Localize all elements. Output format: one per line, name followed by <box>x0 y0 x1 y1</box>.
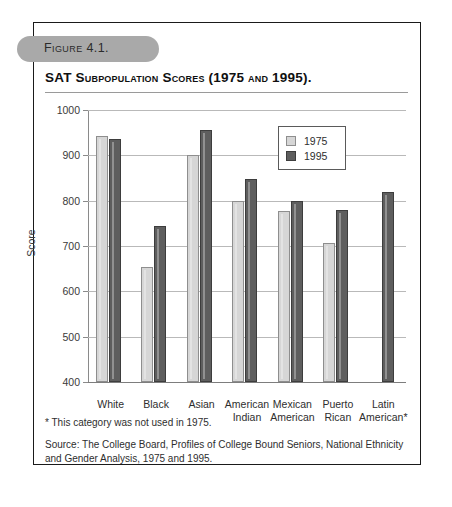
y-axis-tickmark <box>83 291 88 292</box>
bar-highlight <box>248 182 250 379</box>
title-divider <box>45 92 408 93</box>
bar-highlight <box>339 213 341 379</box>
y-axis-tick-label: 400 <box>44 376 80 388</box>
y-axis-tickmark <box>83 155 88 156</box>
bar-y1975 <box>187 155 199 382</box>
y-axis-tick-label: 500 <box>44 331 80 343</box>
y-axis-tick-label: 800 <box>44 195 80 207</box>
footnote-text: * This category was not used in 1975. <box>45 416 405 429</box>
bar-highlight <box>385 195 387 379</box>
plot-area: 1000900800700600500400 WhiteBlackAsianAm… <box>88 110 406 382</box>
bar-group <box>96 110 133 382</box>
bar-y1975 <box>323 243 335 382</box>
legend-item: 1975 <box>286 133 338 148</box>
legend-swatch <box>286 136 296 146</box>
y-axis-tickmark <box>83 337 88 338</box>
y-axis-tick-label: 900 <box>44 149 80 161</box>
bar-highlight <box>112 142 114 379</box>
chart-title: SAT Subpopulation Scores (1975 and 1995)… <box>45 70 312 85</box>
y-axis-tickmark <box>83 110 88 111</box>
source-text: Source: The College Board, Profiles of C… <box>45 438 405 465</box>
bar-y1975 <box>278 211 290 382</box>
bar-group <box>141 110 178 382</box>
y-axis-tick-label: 700 <box>44 240 80 252</box>
legend-label: 1975 <box>304 135 327 147</box>
bar-y1975 <box>232 201 244 382</box>
bar-y1995 <box>382 192 394 382</box>
bar-group <box>187 110 224 382</box>
bar-y1995 <box>200 130 212 382</box>
bar-y1995 <box>291 201 303 382</box>
y-axis-tick-label: 600 <box>44 285 80 297</box>
y-axis-tickmark <box>83 382 88 383</box>
bar-y1995 <box>245 179 257 382</box>
bar-y1975 <box>141 267 153 382</box>
bar-highlight <box>157 229 159 379</box>
y-axis-tickmark <box>83 246 88 247</box>
figure-number-label: Figure 4.1. <box>44 41 109 55</box>
legend-label: 1995 <box>304 150 327 162</box>
bar-y1995 <box>336 210 348 382</box>
bar-group <box>369 110 406 382</box>
bar-highlight <box>190 158 192 379</box>
chart-plot-wrapper: Score 1000900800700600500400 WhiteBlackA… <box>45 100 410 385</box>
figure-page: Figure 4.1. SAT Subpopulation Scores (19… <box>0 0 452 507</box>
bar-highlight <box>294 204 296 379</box>
figure-notes: * This category was not used in 1975. So… <box>45 416 405 465</box>
bar-y1995 <box>154 226 166 382</box>
bar-highlight <box>99 139 101 379</box>
gridline <box>88 382 406 383</box>
chart-legend: 19751995 <box>278 126 346 170</box>
bar-highlight <box>203 133 205 379</box>
bar-highlight <box>235 204 237 379</box>
legend-item: 1995 <box>286 148 338 163</box>
bar-y1975 <box>96 136 108 382</box>
bar-highlight <box>281 214 283 379</box>
legend-swatch <box>286 151 296 161</box>
bar-highlight <box>144 270 146 379</box>
bar-y1995 <box>109 139 121 382</box>
y-axis-title: Score <box>25 229 37 256</box>
bar-group <box>232 110 269 382</box>
bar-highlight <box>326 246 328 379</box>
y-axis-tick-label: 1000 <box>44 104 80 116</box>
y-axis-tickmark <box>83 201 88 202</box>
